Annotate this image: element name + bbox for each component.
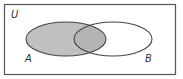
venn-diagram: U A B xyxy=(0,0,183,79)
set-b-label: B xyxy=(145,53,152,64)
set-a-label: A xyxy=(24,53,32,64)
universe-label: U xyxy=(11,9,19,20)
